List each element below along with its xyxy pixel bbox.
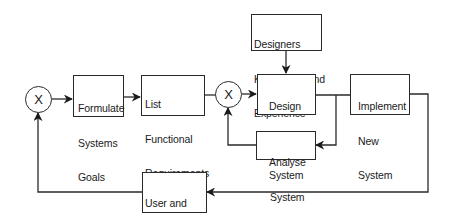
label-line: Implement [358,101,406,113]
label-line: Systems [78,138,124,150]
edge-analyse-sum2 [228,108,256,145]
summing-junction-1: X [25,86,52,113]
label-line: Designers [254,39,325,51]
formulate-systems-goals-label: Formulate Systems Goals [78,80,124,195]
label-line: System [358,170,406,182]
label-line: Goals [78,172,124,184]
analyse-system-label: Analyse System [269,134,306,215]
label-line: Analyse [269,157,306,169]
label-line: New [358,136,406,148]
label-line: Formulate [78,103,124,115]
label-line: Design [269,101,303,113]
label-line: System [269,192,306,204]
summing-junction-1-label: X [34,92,43,107]
user-market-requirements-label: User and Market Requirements [145,175,209,221]
summing-junction-2-label: X [224,87,233,102]
label-line: List [145,99,209,111]
label-line: User and [145,198,209,210]
summing-junction-2: X [215,81,242,108]
implement-new-system-label: Implement New System [358,78,406,193]
label-line: Functional [145,134,209,146]
